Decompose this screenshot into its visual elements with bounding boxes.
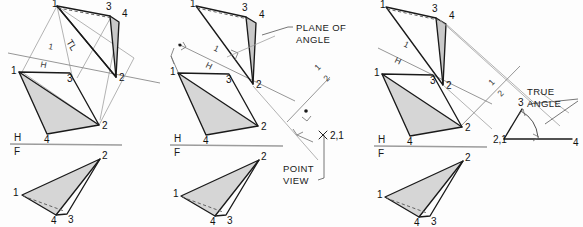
top-point-label-4: 4 (203, 135, 209, 146)
front-point-label-4: 4 (210, 216, 216, 227)
fold-origin-dot (178, 43, 181, 46)
aux-point-label-2: 2 (256, 79, 262, 90)
projector (446, 24, 560, 126)
hf-label-h: H (378, 134, 385, 145)
panel-3: 1 H 1 3 4 2 (374, 0, 579, 227)
point-view-label: 2,1 (330, 130, 344, 141)
aux-triangle-1-3-2 (196, 6, 253, 84)
aux-point-label-1: 1 (52, 0, 58, 9)
panel-1-fold-line-h1: 1 H (8, 41, 160, 83)
point-view-x-mark (319, 131, 327, 139)
panel-1-front-view: 1 2 3 4 (13, 150, 108, 226)
true-angle-vertex-label: 2,1 (493, 134, 507, 145)
panel-3-true-angle-view: 2,1 3 4 TRUE ANGLE (493, 86, 579, 148)
fold-label-2: 2 (321, 73, 332, 84)
hf-label-f: F (14, 146, 20, 157)
true-angle-arc (521, 111, 538, 137)
hf-line (374, 146, 487, 147)
aux-point-label-1: 1 (380, 0, 386, 10)
dihedral-angle-figure: 1 H 1 3 4 2 TL 1 3 (0, 0, 583, 227)
top-point-label-1: 1 (170, 66, 176, 77)
hf-label-f: F (378, 148, 384, 159)
panel-1: 1 H 1 3 4 2 TL 1 3 (8, 0, 160, 226)
right-angle-tick (302, 116, 311, 121)
front-point-label-4: 4 (414, 217, 420, 227)
point-view-line-1: POINT (283, 163, 314, 174)
aux-point-label-2: 2 (446, 80, 452, 91)
panel-2-front-view: 1 2 3 4 (173, 151, 267, 227)
top-point-label-3: 3 (226, 74, 232, 85)
projector (22, 6, 57, 72)
front-point-label-4: 4 (51, 215, 57, 226)
true-angle-line-1: TRUE (527, 86, 554, 97)
hf-line (10, 144, 122, 145)
aux-point-label-2: 2 (119, 72, 125, 83)
distance-tick (293, 129, 303, 135)
aux-point-label-3: 3 (242, 2, 248, 13)
projector (440, 20, 533, 104)
top-point-label-2: 2 (465, 122, 471, 133)
panel-3-projection-lines (440, 20, 569, 129)
hf-label-h: H (174, 133, 181, 144)
front-shaded-face (385, 161, 463, 217)
point-view-line-2: VIEW (283, 175, 309, 186)
top-point-label-2: 2 (102, 120, 108, 131)
panel-3-auxiliary-view: 1 3 4 2 (380, 0, 455, 91)
panel-1-auxiliary-view: 1 3 4 2 TL (52, 0, 128, 83)
panel-1-top-view: 1 3 2 4 (11, 65, 108, 145)
fold-line-1-2 (287, 77, 330, 122)
fold-label-1: 1 (486, 77, 497, 88)
fold-line-1-2 (459, 66, 520, 128)
front-point-label-3: 3 (227, 215, 233, 226)
top-point-label-4: 4 (407, 136, 413, 147)
front-point-label-1: 1 (173, 188, 179, 199)
fold-origin-dot (304, 109, 308, 113)
panel-2-auxiliary-view: 1 3 4 2 (190, 0, 275, 90)
hf-label-f: F (174, 147, 180, 158)
aux-point-label-1: 1 (190, 0, 196, 9)
front-point-label-1: 1 (377, 189, 383, 200)
front-point-label-3: 3 (431, 216, 437, 227)
panel-2-plane-of-angle-callout: PLANE OF ANGLE (262, 22, 346, 45)
top-point-label-1: 1 (374, 67, 380, 78)
front-point-label-2: 2 (102, 150, 108, 161)
fold-label-1: 1 (48, 41, 55, 52)
aux-point-label-3: 3 (432, 3, 438, 14)
true-angle-label-4: 4 (573, 137, 579, 148)
fold-label-1: 1 (312, 62, 323, 73)
front-shaded-face (181, 160, 259, 216)
true-angle-label-3: 3 (518, 97, 524, 108)
panel-3-front-view: 1 2 3 4 (377, 152, 471, 227)
top-point-label-3: 3 (430, 75, 436, 86)
true-angle-line-2: ANGLE (527, 98, 561, 109)
fold-label-1: 1 (212, 43, 221, 54)
fold-label-h: H (204, 60, 214, 72)
hf-label-h: H (14, 132, 21, 143)
top-point-label-4: 4 (44, 134, 50, 145)
aux-point-label-4: 4 (259, 9, 265, 20)
projector (77, 17, 111, 78)
front-point-label-2: 2 (465, 152, 471, 163)
front-shaded-face (22, 159, 100, 215)
panel-2-point-view-construction: 1 2 2,1 POINT VIEW (253, 62, 344, 186)
panel-3-top-view: 1 3 2 4 (374, 67, 471, 147)
point-view-leader (318, 135, 324, 180)
plane-of-angle-line-1: PLANE OF (296, 22, 346, 33)
front-point-label-2: 2 (261, 151, 267, 162)
fold-label-2: 2 (495, 88, 506, 99)
panel-3-fold-line-12: 1 2 (459, 66, 520, 128)
front-point-label-1: 1 (13, 187, 19, 198)
aux-point-label-4: 4 (449, 10, 455, 21)
aux-triangle-1-3-2 (386, 7, 443, 85)
top-point-label-1: 1 (11, 65, 17, 76)
figure-canvas: 1 H 1 3 4 2 TL 1 3 (0, 0, 583, 227)
top-point-label-2: 2 (261, 121, 267, 132)
aux-point-label-3: 3 (106, 1, 112, 12)
hf-line (170, 145, 283, 146)
front-point-label-3: 3 (68, 214, 74, 225)
plane-of-angle-line-2: ANGLE (296, 34, 330, 45)
panel-2: 1 H 1 3 4 2 PLANE OF ANGLE (170, 0, 346, 227)
callout-leader (262, 27, 293, 35)
aux-point-label-4: 4 (122, 8, 128, 19)
fold-label-h: H (40, 59, 48, 70)
